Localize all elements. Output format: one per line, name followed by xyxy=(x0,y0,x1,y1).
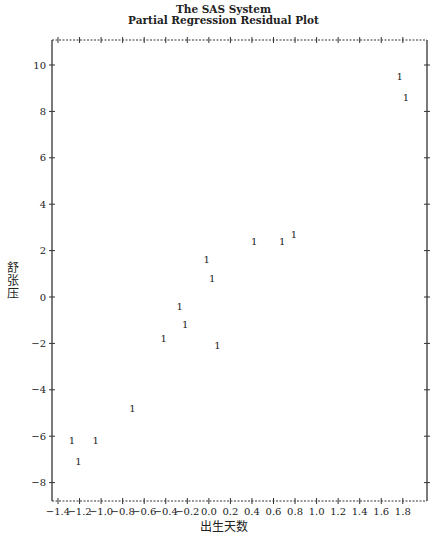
data-point: 1 xyxy=(291,229,297,240)
x-tick-label: 1.4 xyxy=(352,506,368,517)
data-point: 1 xyxy=(214,340,220,351)
data-point: 1 xyxy=(403,92,409,103)
x-tick-label: 1.0 xyxy=(309,506,325,517)
x-tick-label: 0.0 xyxy=(201,506,217,517)
x-tick-label: −0.2 xyxy=(175,506,199,517)
data-point: 1 xyxy=(93,435,99,446)
y-tick-label: 4 xyxy=(40,199,46,210)
y-tick-label: 0 xyxy=(40,292,46,303)
data-point: 1 xyxy=(129,403,135,414)
x-tick-label: 1.2 xyxy=(330,506,346,517)
data-point: 1 xyxy=(251,236,257,247)
x-tick-label: 0.4 xyxy=(244,506,260,517)
data-point: 1 xyxy=(69,435,75,446)
x-tick-label: 0.2 xyxy=(222,506,238,517)
x-axis-label: 出生天数 xyxy=(0,517,447,534)
y-tick-label: −6 xyxy=(31,431,46,442)
data-point: 1 xyxy=(160,333,166,344)
x-tick-label: 0.6 xyxy=(266,506,282,517)
y-tick-label: 10 xyxy=(33,60,46,71)
y-tick-label: 8 xyxy=(40,106,46,117)
data-point: 1 xyxy=(204,254,210,265)
data-point: 1 xyxy=(279,236,285,247)
y-tick-label: 2 xyxy=(40,245,46,256)
x-tick-label: 1.6 xyxy=(373,506,389,517)
data-point: 1 xyxy=(396,71,402,82)
y-tick-label: −4 xyxy=(31,384,46,395)
data-point: 1 xyxy=(209,273,215,284)
scatter-plot: −1.4−1.2−1.0−0.8−0.6−0.4−0.20.00.20.40.6… xyxy=(0,0,447,545)
data-point: 1 xyxy=(182,319,188,330)
x-tick-label: 1.8 xyxy=(395,506,411,517)
y-tick-label: −8 xyxy=(31,477,46,488)
y-tick-label: 6 xyxy=(40,152,46,163)
data-point: 1 xyxy=(177,301,183,312)
data-point: 1 xyxy=(75,456,81,467)
y-tick-label: −2 xyxy=(31,338,46,349)
x-tick-label: 0.8 xyxy=(287,506,303,517)
y-axis-label: 舒张压 xyxy=(6,262,20,301)
